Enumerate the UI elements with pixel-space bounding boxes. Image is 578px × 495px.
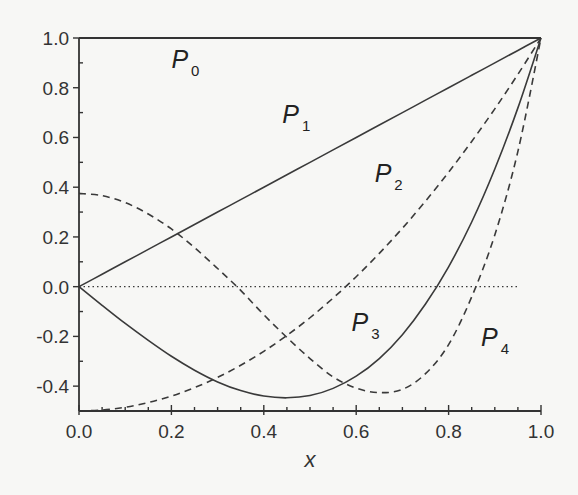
y-tick-label: 0.4 [43,177,70,198]
y-tick-label: -0.2 [36,326,69,347]
curve-p3 [79,38,541,398]
y-tick-label: 0.0 [43,277,69,298]
x-tick-label: 0.0 [66,421,92,442]
y-tick-label: 0.2 [43,227,69,248]
y-tick-label: 0.6 [43,127,69,148]
y-tick-label: 1.0 [43,28,69,49]
x-tick-label: 0.4 [251,421,278,442]
curve-p2 [79,38,541,411]
label-p3: P3 [352,308,380,342]
curve-labels: P0P1P2P3P4 [171,45,509,358]
plot-curves [79,38,541,411]
legendre-polynomials-chart: 0.00.20.40.60.81.0-0.4-0.20.00.20.40.60.… [0,0,578,495]
y-tick-label: 0.8 [43,78,69,99]
x-tick-label: 0.8 [435,421,461,442]
y-tick-label: -0.4 [36,376,69,397]
label-p1: P1 [282,100,310,134]
label-p2: P2 [375,159,403,193]
x-tick-label: 0.6 [343,421,369,442]
x-axis-label: x [304,447,317,472]
label-p0: P0 [171,45,199,79]
curve-p1 [79,38,541,287]
axes: 0.00.20.40.60.81.0-0.4-0.20.00.20.40.60.… [36,28,554,442]
label-p4: P4 [481,323,509,357]
x-tick-label: 0.2 [158,421,184,442]
x-tick-label: 1.0 [528,421,554,442]
